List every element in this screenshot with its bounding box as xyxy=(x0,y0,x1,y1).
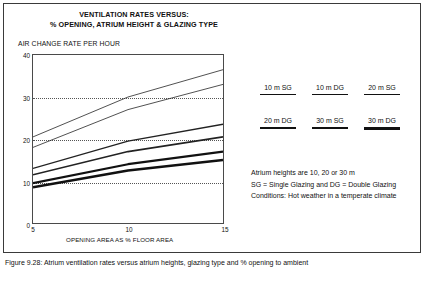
legend-swatch xyxy=(260,94,296,95)
x-tick-label: 15 xyxy=(221,226,228,233)
series-line xyxy=(33,84,223,147)
legend-item: 20 m SG xyxy=(356,84,408,95)
data-lines xyxy=(33,55,223,223)
legend-item-label: 10 m DG xyxy=(304,84,356,91)
plot-area: 010203040 51015 xyxy=(32,54,224,224)
notes-block: Atrium heights are 10, 20 or 30 m SG = S… xyxy=(251,167,423,202)
chart-title-line-2: % OPENING, ATRIUM HEIGHT & GLAZING TYPE xyxy=(4,20,264,30)
legend-row: 10 m SG10 m DG20 m SG xyxy=(252,84,412,95)
note-line-3: Conditions: Hot weather in a temperate c… xyxy=(251,190,423,202)
legend-swatch xyxy=(312,127,348,129)
legend-row: 20 m DG30 m SG30 m DG xyxy=(252,117,412,130)
x-tick-label: 5 xyxy=(31,226,35,233)
legend-swatch xyxy=(364,94,400,95)
note-line-2: SG = Single Glazing and DG = Double Glaz… xyxy=(251,179,423,191)
y-tick-label: 20 xyxy=(23,137,30,144)
legend-swatch xyxy=(312,94,348,95)
chart-title-line-1: VENTILATION RATES VERSUS: xyxy=(4,10,264,20)
series-line xyxy=(33,70,223,137)
legend-item: 10 m SG xyxy=(252,84,304,95)
series-line xyxy=(33,124,223,168)
x-axis-title: OPENING AREA AS % FLOOR AREA xyxy=(66,236,173,243)
legend-swatch xyxy=(260,127,296,129)
y-tick-label: 30 xyxy=(23,94,30,101)
y-tick-label: 40 xyxy=(23,52,30,59)
note-line-1: Atrium heights are 10, 20 or 30 m xyxy=(251,167,423,179)
y-tick-label: 0 xyxy=(26,222,30,229)
x-tick-label: 10 xyxy=(125,226,132,233)
legend-item-label: 20 m SG xyxy=(356,84,408,91)
legend-item: 20 m DG xyxy=(252,117,304,129)
y-tick-label: 10 xyxy=(23,179,30,186)
legend-item-label: 30 m DG xyxy=(356,117,408,124)
y-axis-title: AIR CHANGE RATE PER HOUR xyxy=(18,40,120,47)
legend-item: 30 m SG xyxy=(304,117,356,129)
figure-frame: VENTILATION RATES VERSUS: % OPENING, ATR… xyxy=(3,3,421,253)
legend: 10 m SG10 m DG20 m SG20 m DG30 m SG30 m … xyxy=(252,84,412,152)
legend-swatch xyxy=(364,127,400,130)
legend-item-label: 10 m SG xyxy=(252,84,304,91)
legend-item: 10 m DG xyxy=(304,84,356,95)
legend-item: 30 m DG xyxy=(356,117,408,130)
chart-title: VENTILATION RATES VERSUS: % OPENING, ATR… xyxy=(4,10,264,30)
legend-item-label: 20 m DG xyxy=(252,117,304,124)
figure-caption: Figure 9.28: Atrium ventilation rates ve… xyxy=(5,258,423,268)
legend-item-label: 30 m SG xyxy=(304,117,356,124)
